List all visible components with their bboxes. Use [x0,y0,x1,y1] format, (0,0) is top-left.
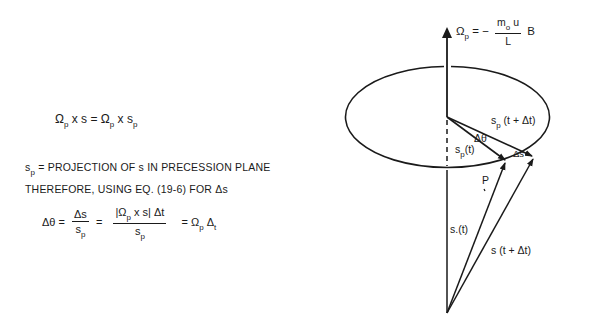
label-P: P [482,174,489,186]
numerator: mo u [495,16,521,34]
fraction-mo-u-over-L: mo u L [495,16,521,47]
field-B: B [527,25,535,37]
label-sp-t-dt: sp (t + Δt) [491,114,535,130]
label-s-t-dt: s (t + Δt) [491,244,531,256]
label-text: (t + Δt) [501,114,536,126]
label-text: (t) [465,143,475,155]
omega-p-label: Ωp = − mo u L B [456,16,535,47]
axis-arrowhead-icon [442,27,452,38]
vector-s-t-dt [447,159,533,313]
p-tick-mark [484,189,485,191]
eq-text: = − [469,25,489,37]
num-text: u [510,16,519,28]
omega-symbol: Ω [456,25,465,37]
vector-s-t [447,163,505,313]
label-sp-t: sp(t) [455,143,475,159]
precession-diagram [0,0,589,323]
label-s-t: s.(t) [450,223,468,235]
denominator: L [495,34,521,47]
num-text: m [497,16,506,28]
label-delta-theta: Δθ [474,132,487,144]
label-delta-s: Δs [513,148,524,159]
